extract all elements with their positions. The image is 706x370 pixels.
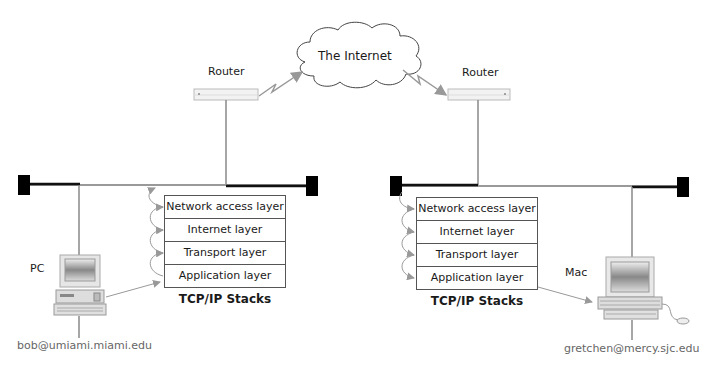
- terminator-icon: [306, 176, 318, 196]
- pc-computer-icon: [54, 255, 106, 315]
- terminator-icon: [677, 177, 689, 197]
- lan-bus-left: [18, 175, 318, 196]
- pc-label: PC: [30, 262, 44, 275]
- layer-application: Application layer: [165, 265, 285, 287]
- mac-computer-icon: [598, 257, 689, 324]
- mac-email: gretchen@mercy.sjc.edu: [564, 342, 699, 355]
- internet-label: The Internet: [318, 49, 392, 63]
- stack-title-right: TCP/IP Stacks: [416, 294, 538, 308]
- lan-bus-right: [390, 176, 689, 197]
- layer-transport: Transport layer: [417, 244, 537, 267]
- router-right-icon: [448, 89, 510, 100]
- layer-application: Application layer: [417, 267, 537, 289]
- layer-network-access: Network access layer: [417, 198, 537, 221]
- layer-internet: Internet layer: [165, 219, 285, 242]
- stack-flow-arrows-left: [149, 188, 163, 276]
- terminator-icon: [390, 176, 402, 196]
- layer-internet: Internet layer: [417, 221, 537, 244]
- router-left-label: Router: [208, 65, 244, 78]
- router-left-icon: [194, 89, 258, 100]
- mac-label: Mac: [565, 266, 587, 279]
- wan-link-left-icon: [259, 72, 302, 96]
- terminator-icon: [18, 175, 30, 195]
- stack-flow-arrows-right: [400, 192, 414, 278]
- stack-title-left: TCP/IP Stacks: [164, 292, 286, 306]
- layer-transport: Transport layer: [165, 242, 285, 265]
- router-right-label: Router: [462, 66, 498, 79]
- pc-email: bob@umiami.miami.edu: [17, 339, 152, 352]
- tcpip-stack-left: Network access layer Internet layer Tran…: [164, 195, 286, 288]
- layer-network-access: Network access layer: [165, 196, 285, 219]
- tcpip-stack-right: Network access layer Internet layer Tran…: [416, 197, 538, 290]
